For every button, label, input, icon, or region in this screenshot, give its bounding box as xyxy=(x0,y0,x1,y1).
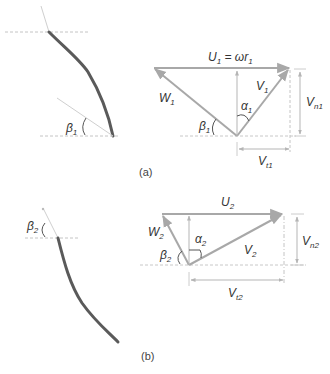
v2-label: V2 xyxy=(244,243,257,259)
blade-profile-outlet xyxy=(58,238,118,342)
blade-inlet-diagram: β1 xyxy=(5,6,118,137)
u2-label: U2 xyxy=(221,195,235,211)
beta1-label: β1 xyxy=(198,119,210,135)
vt2-label: Vt2 xyxy=(228,286,243,302)
beta2-blade-arc xyxy=(42,223,45,237)
w1-label: W1 xyxy=(159,91,175,107)
velocity-triangle-outlet: U2 W2 α2 V2 β2 Vn2 Vt2 xyxy=(140,195,319,302)
panel-b: β2 U2 W2 α2 xyxy=(25,195,319,362)
velocity-triangle-inlet: U1 = ωr1 W1 V1 α1 β1 Vn1 Vt1 xyxy=(154,50,323,170)
beta2-triangle-arc xyxy=(178,251,182,264)
vn2-label: Vn2 xyxy=(302,234,319,250)
extension-tip-dot xyxy=(42,208,44,210)
blade-profile xyxy=(49,32,113,136)
alpha1-arc xyxy=(237,115,249,121)
vn1-label: Vn1 xyxy=(306,95,323,111)
alpha2-arc xyxy=(189,250,201,258)
alpha1-label: α1 xyxy=(241,99,252,115)
panel-b-caption: (b) xyxy=(141,350,154,362)
blade-beta2-label: β2 xyxy=(26,219,39,235)
beta1-blade-arc xyxy=(83,118,86,135)
beta1-triangle-arc xyxy=(212,119,216,135)
blade-outlet-diagram: β2 xyxy=(25,208,118,342)
outlet-extension-line xyxy=(43,208,58,238)
blade-beta1-label: β1 xyxy=(65,121,77,137)
u1-label: U1 = ωr1 xyxy=(208,50,253,66)
panel-a: β1 U1 = ωr1 W1 xyxy=(5,6,323,178)
v1-label: V1 xyxy=(256,79,268,95)
velocity-triangle-figure: β1 U1 = ωr1 W1 xyxy=(0,0,330,374)
w2-label: W2 xyxy=(148,225,164,241)
beta2-label: β2 xyxy=(159,248,172,264)
alpha2-label: α2 xyxy=(195,232,207,248)
vt1-label: Vt1 xyxy=(258,154,273,170)
inlet-extension-line xyxy=(41,6,49,32)
panel-a-caption: (a) xyxy=(139,166,152,178)
